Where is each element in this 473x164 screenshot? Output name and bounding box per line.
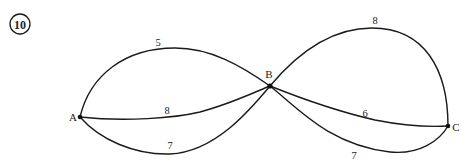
edge-a-b-middle [80, 86, 270, 119]
node-c-dot [446, 124, 451, 129]
edge-weight-a-b-upper: 5 [155, 37, 160, 48]
problem-number-badge: 10 [10, 14, 30, 34]
problem-number: 10 [14, 18, 26, 32]
node-c-label: C [452, 121, 459, 133]
edge-weight-b-c-upper: 8 [372, 15, 377, 26]
edge-weight-b-c-middle: 6 [362, 108, 367, 119]
node-a-dot [78, 115, 83, 120]
edge-b-c-upper [270, 28, 448, 126]
node-b-dot [267, 83, 272, 88]
edge-weight-b-c-lower: 7 [351, 150, 356, 161]
edge-weight-a-b-lower: 7 [167, 140, 172, 151]
node-b-label: B [265, 68, 272, 80]
edge-a-b-upper [80, 48, 270, 117]
node-a-label: A [69, 111, 77, 123]
edge-weight-a-b-middle: 8 [164, 105, 169, 116]
graph-diagram: 10 5 8 7 8 6 7 A B C [0, 0, 473, 164]
edge-b-c-middle [270, 86, 448, 126]
edge-a-b-lower [80, 86, 270, 154]
